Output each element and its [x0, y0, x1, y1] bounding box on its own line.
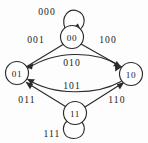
edge-001-path: [27, 44, 64, 66]
edge-label-101: 101: [63, 80, 81, 91]
node-01[interactable]: 01: [6, 62, 29, 85]
node-11-label: 11: [70, 109, 80, 119]
edge-label-001: 001: [27, 34, 45, 45]
node-00-label: 00: [67, 33, 78, 43]
node-11[interactable]: 11: [64, 102, 87, 125]
edge-label-100: 100: [99, 34, 117, 45]
edge-label-110: 110: [108, 94, 125, 105]
node-10-label: 10: [126, 70, 137, 80]
edge-label-000: 000: [38, 6, 56, 17]
graph-canvas: 00 01 10 11 000 001 100 010 101 011 110 …: [0, 0, 148, 143]
state-transition-diagram: 00 01 10 11 000 001 100 010 101 011 110 …: [0, 0, 148, 143]
node-10[interactable]: 10: [120, 63, 143, 86]
node-00[interactable]: 00: [61, 26, 84, 49]
node-01-label: 01: [12, 69, 23, 79]
edge-label-011: 011: [18, 94, 35, 105]
edge-label-111: 111: [44, 128, 61, 139]
edge-label-010: 010: [63, 57, 81, 68]
edge-010-arrowhead: [113, 61, 121, 67]
